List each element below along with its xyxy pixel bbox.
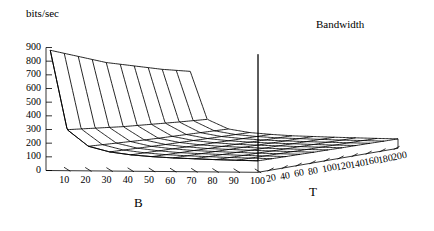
chart-title: Bandwidth bbox=[316, 19, 364, 30]
z-tick-label: 700 bbox=[15, 69, 41, 79]
z-tick-label: 600 bbox=[15, 83, 41, 93]
x-tick-label: 80 bbox=[208, 176, 218, 186]
x-axis-label: B bbox=[134, 196, 143, 209]
z-tick-label: 200 bbox=[15, 138, 41, 148]
z-tick-label: 800 bbox=[15, 56, 41, 66]
mesh-line-constant-t bbox=[176, 70, 384, 141]
y-tick-label: 40 bbox=[279, 170, 291, 182]
x-tick-label: 100 bbox=[250, 176, 265, 186]
y-tick-label: 80 bbox=[307, 165, 319, 177]
mesh-line-constant-t bbox=[190, 71, 398, 138]
z-tick-label: 500 bbox=[15, 97, 41, 107]
x-tick-label: 10 bbox=[59, 175, 69, 185]
x-tick-label: 20 bbox=[80, 175, 90, 185]
z-axis-label: bits/sec bbox=[26, 8, 59, 19]
front-profile-curve bbox=[50, 50, 258, 161]
mesh-line-constant-b bbox=[50, 50, 190, 71]
mesh-line-constant-t bbox=[50, 50, 258, 161]
y-axis-label: T bbox=[309, 185, 317, 198]
surface-plot-canvas bbox=[0, 0, 434, 231]
x-tick-label: 50 bbox=[144, 175, 154, 185]
mesh-line-constant-t bbox=[64, 53, 272, 158]
z-tick-label: 100 bbox=[15, 151, 41, 161]
x-tick-label: 60 bbox=[165, 176, 175, 186]
z-tick-label: 400 bbox=[15, 110, 41, 120]
x-tick-label: 90 bbox=[229, 176, 239, 186]
x-tick-label: 30 bbox=[102, 175, 112, 185]
x-axis-line bbox=[46, 171, 258, 173]
z-tick-label: 900 bbox=[15, 42, 41, 52]
z-tick-label: 300 bbox=[15, 124, 41, 134]
y-tick-label: 60 bbox=[293, 167, 305, 179]
x-tick-label: 70 bbox=[186, 176, 196, 186]
z-tick-label: 0 bbox=[15, 165, 41, 175]
y-tick-label: 20 bbox=[265, 172, 277, 184]
x-tick-label: 40 bbox=[123, 175, 133, 185]
